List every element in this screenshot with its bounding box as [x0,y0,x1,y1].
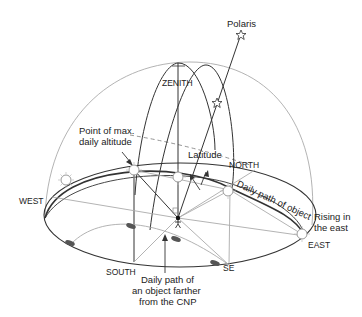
arrowhead-farther-icon [162,234,168,241]
meridian-arc-2 [150,65,234,230]
label-farther-3: from the CNP [139,296,197,307]
latitude-arrow-left [192,178,200,190]
label-farther-2: an object farther [132,285,201,296]
right-angle-marker [173,208,178,213]
label-north: NORTH [229,160,259,170]
label-rising-1: Rising in [314,211,350,222]
label-farther-1: Daily path of [141,274,194,285]
label-west: WEST [19,196,44,206]
celestial-sphere-diagram: Polaris ZENITH Point of max. daily altit… [0,0,362,317]
label-zenith: ZENITH [162,78,193,88]
label-south: SOUTH [106,267,136,277]
sun-icon [58,172,74,188]
sun-icon [220,183,236,199]
star-icon [212,98,222,108]
cloud-icon [125,222,136,230]
label-se: SE [223,263,235,273]
label-polaris: Polaris [227,18,256,29]
star-icon [236,30,246,40]
label-point-max-1: Point of max. [79,125,134,136]
label-latitude: Latitude [188,149,222,160]
cloud-icon [170,235,181,243]
arrowhead-right-icon [204,170,209,177]
label-point-max-2: daily altitude [79,136,132,147]
daily-path-farther [72,224,229,265]
label-rising-2: the east [314,222,348,233]
observer-icon [175,216,181,228]
label-east: EAST [308,240,330,250]
vertical-se [229,190,230,265]
